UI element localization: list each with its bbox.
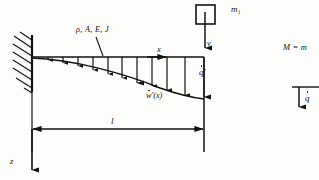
fragment-load-symbol: q bbox=[305, 94, 310, 103]
mass-label: m1 bbox=[231, 5, 241, 15]
distributed-load-symbol: q bbox=[199, 68, 204, 77]
deflection-rate-label: w'(x) bbox=[146, 92, 162, 100]
support-hatching bbox=[13, 32, 32, 93]
figure-root: ρ, A, E, J m1 v x w'(x) q' l z M = m q bbox=[0, 0, 319, 180]
mass-label-subscript: 1 bbox=[238, 9, 241, 15]
moment-expression-label: M = m bbox=[283, 43, 307, 52]
mass-label-symbol: m bbox=[231, 4, 238, 14]
fragment-load-label: q bbox=[305, 94, 310, 103]
beam-properties-label: ρ, A, E, J bbox=[76, 26, 109, 34]
beam-properties-leader-line bbox=[96, 37, 103, 56]
deflection-rate-suffix: '(x) bbox=[151, 91, 162, 100]
cantilever-beam-diagram bbox=[0, 0, 319, 180]
deflection-rate-curve bbox=[32, 58, 204, 99]
span-length-label: l bbox=[111, 117, 114, 126]
velocity-label: v bbox=[207, 39, 211, 48]
z-axis-label: z bbox=[10, 157, 13, 166]
deflection-rate-symbol: w bbox=[146, 92, 151, 100]
x-axis-label: x bbox=[157, 45, 161, 54]
distributed-load-label: q' bbox=[199, 68, 205, 77]
